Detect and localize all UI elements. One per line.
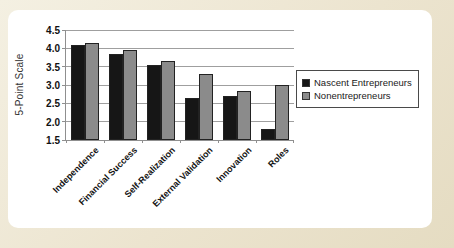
x-tick-mark bbox=[180, 140, 181, 143]
bar-nascent bbox=[185, 98, 199, 140]
y-tick-mark bbox=[62, 30, 65, 31]
y-tick-label: 1.5 bbox=[46, 135, 60, 146]
gridline bbox=[66, 103, 294, 104]
x-tick-mark bbox=[218, 140, 219, 143]
y-tick-mark bbox=[62, 66, 65, 67]
plot-area: IndependenceFinancial SuccessSelf-Realiz… bbox=[65, 30, 294, 141]
gridline bbox=[66, 30, 294, 31]
y-tick-label: 4.5 bbox=[46, 25, 60, 36]
y-tick-label: 3.0 bbox=[46, 80, 60, 91]
bar-nascent bbox=[223, 96, 237, 140]
bar-nonentrepreneur bbox=[161, 61, 175, 140]
y-tick-label: 3.5 bbox=[46, 61, 60, 72]
y-tick-mark bbox=[62, 103, 65, 104]
gridline bbox=[66, 66, 294, 67]
y-tick-mark bbox=[62, 140, 65, 141]
bar-nascent bbox=[71, 45, 85, 140]
bar-nascent bbox=[109, 54, 123, 140]
chart-panel: 5-Point Scale IndependenceFinancial Succ… bbox=[8, 10, 432, 228]
gridline bbox=[66, 121, 294, 122]
y-tick-label: 4.0 bbox=[46, 43, 60, 54]
bar-nascent bbox=[147, 65, 161, 140]
x-tick-mark bbox=[66, 140, 67, 143]
x-category-label: Roles bbox=[267, 145, 291, 169]
x-category-label: Innovation bbox=[214, 145, 253, 184]
figure-background: { "figure": { "background_color": "#ece4… bbox=[0, 0, 454, 248]
bar-nonentrepreneur bbox=[275, 85, 289, 140]
x-tick-mark bbox=[104, 140, 105, 143]
y-axis-title: 5-Point Scale bbox=[14, 30, 25, 140]
x-tick-mark bbox=[142, 140, 143, 143]
y-tick-label: 2.5 bbox=[46, 98, 60, 109]
legend-label: Nonentrepreneurs bbox=[314, 90, 391, 101]
y-tick-mark bbox=[62, 48, 65, 49]
legend-item: Nascent Entrepreneurs bbox=[302, 77, 412, 88]
bar-nonentrepreneur bbox=[85, 43, 99, 140]
y-tick-mark bbox=[62, 85, 65, 86]
legend-label: Nascent Entrepreneurs bbox=[314, 77, 412, 88]
y-tick-mark bbox=[62, 121, 65, 122]
bar-nonentrepreneur bbox=[123, 50, 137, 140]
x-tick-mark bbox=[256, 140, 257, 143]
gridline bbox=[66, 48, 294, 49]
bar-nascent bbox=[261, 129, 275, 140]
x-tick-mark bbox=[293, 140, 294, 143]
gridline bbox=[66, 85, 294, 86]
legend-swatch-nascent bbox=[302, 79, 310, 87]
legend: Nascent EntrepreneursNonentrepreneurs bbox=[296, 70, 419, 108]
bar-nonentrepreneur bbox=[237, 91, 251, 141]
legend-item: Nonentrepreneurs bbox=[302, 90, 412, 101]
y-tick-label: 2.0 bbox=[46, 116, 60, 127]
legend-swatch-nonentrepreneur bbox=[302, 92, 310, 100]
bar-nonentrepreneur bbox=[199, 74, 213, 140]
